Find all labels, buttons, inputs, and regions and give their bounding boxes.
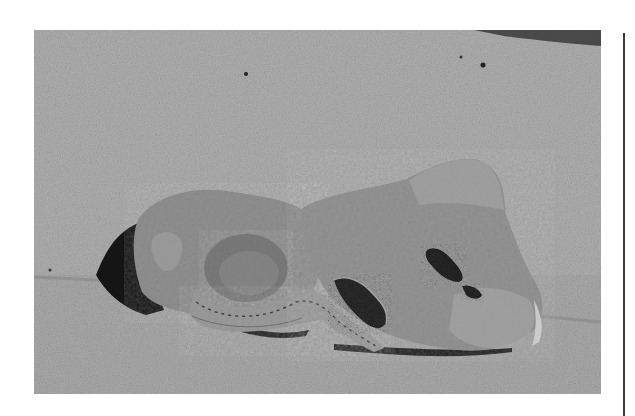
- rock-photo-illustration: [34, 30, 601, 394]
- rock-photo: [34, 30, 601, 394]
- vertical-rule: [623, 33, 625, 416]
